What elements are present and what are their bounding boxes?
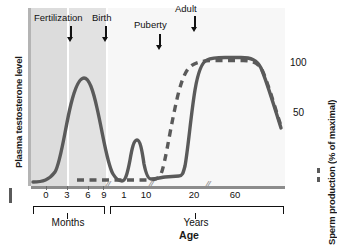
bracket-months — [33, 206, 105, 214]
x-tick-60-years: 60 — [225, 189, 245, 200]
x-tick-0-months: 0 — [36, 189, 56, 200]
x-axis-title-text: Age — [179, 229, 199, 241]
group-label-months: Months — [37, 217, 99, 228]
x-tick-3-months: 3 — [57, 189, 77, 200]
annotation-fertilization: Fertilization — [34, 12, 83, 23]
legend-key-dashed-line — [317, 168, 320, 185]
y-right-tick-100: 100 — [290, 57, 307, 68]
y-right-tick-50: 50 — [293, 107, 304, 118]
x-tick-20-years: 20 — [184, 189, 204, 200]
x-tick-10-years: 10 — [136, 189, 156, 200]
curve-plasma-testosterone — [33, 58, 281, 183]
legend-key-solid-line — [9, 188, 12, 203]
annotation-puberty: Puberty — [134, 19, 167, 30]
x-axis-title: Age — [0, 229, 334, 241]
y-axis-left-title: Plasma testosterone level — [13, 56, 24, 168]
bracket-years — [110, 206, 284, 214]
y-axis-right-title: Sperm production (% of maximal) — [326, 100, 337, 245]
x-tick-9-months: 9 — [94, 189, 114, 200]
x-tick-1-year: 1 — [114, 189, 134, 200]
group-label-years: Years — [165, 217, 227, 228]
annotation-birth: Birth — [92, 12, 112, 23]
annotation-adult: Adult — [175, 3, 197, 14]
